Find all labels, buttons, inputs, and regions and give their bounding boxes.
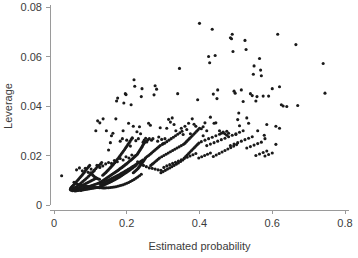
x-tick-label: 0.8: [337, 217, 352, 229]
data-point: [151, 137, 154, 140]
data-point: [154, 168, 157, 171]
data-point: [132, 78, 135, 81]
data-point: [130, 103, 133, 106]
data-point: [88, 164, 91, 167]
data-point: [137, 137, 140, 140]
data-point: [285, 105, 288, 108]
data-point: [171, 162, 174, 165]
data-point: [265, 123, 268, 126]
data-point: [243, 39, 246, 42]
data-point: [191, 153, 194, 156]
data-point: [258, 57, 261, 60]
data-point: [189, 132, 192, 135]
data-point: [124, 93, 127, 96]
data-point: [162, 166, 165, 169]
data-point: [171, 116, 174, 119]
data-point: [221, 150, 224, 153]
data-point: [209, 151, 212, 154]
data-point: [156, 140, 159, 143]
data-point: [132, 125, 135, 128]
data-point: [206, 153, 209, 156]
data-point: [212, 93, 215, 96]
y-tick-label: 0.02: [21, 150, 42, 162]
data-point: [253, 64, 256, 67]
data-point: [109, 141, 112, 144]
data-point: [211, 28, 214, 31]
plot-canvas: 00.020.040.060.0800.20.40.60.8Estimated …: [0, 0, 358, 258]
data-point: [111, 132, 114, 135]
data-point: [163, 137, 166, 140]
data-point: [125, 139, 128, 142]
data-point: [60, 174, 63, 177]
data-point: [234, 133, 237, 136]
data-point: [156, 168, 159, 171]
data-point: [133, 85, 136, 88]
data-point: [200, 155, 203, 158]
scatter-plot-figure: 00.020.040.060.0800.20.40.60.8Estimated …: [0, 0, 358, 258]
data-point: [136, 160, 139, 163]
data-point: [174, 129, 177, 132]
data-point: [129, 145, 132, 148]
x-tick-label: 0: [51, 217, 57, 229]
data-point: [242, 129, 245, 132]
data-point: [115, 100, 118, 103]
data-point: [271, 151, 274, 154]
data-point: [188, 154, 191, 157]
data-point: [202, 134, 205, 137]
data-point: [220, 138, 223, 141]
data-point: [135, 130, 138, 133]
data-point: [259, 69, 262, 72]
data-point: [214, 54, 217, 57]
data-point: [104, 162, 107, 165]
data-point: [113, 159, 116, 162]
y-tick-label: 0.04: [21, 100, 42, 112]
data-point: [234, 92, 237, 95]
data-point: [140, 173, 143, 176]
data-point: [245, 147, 248, 150]
data-point: [278, 127, 281, 130]
data-point: [267, 95, 270, 98]
data-point: [230, 37, 233, 40]
data-point: [107, 149, 110, 152]
data-point: [229, 146, 232, 149]
data-point: [100, 161, 103, 164]
data-point: [162, 142, 165, 145]
data-point: [253, 144, 256, 147]
data-point: [110, 162, 113, 165]
data-point: [81, 169, 84, 172]
data-point: [154, 84, 157, 87]
data-point: [207, 137, 210, 140]
data-point: [214, 121, 217, 124]
data-point: [238, 124, 241, 127]
data-point: [151, 167, 154, 170]
data-point: [252, 73, 255, 76]
data-point: [145, 165, 148, 168]
data-point: [194, 152, 197, 155]
data-point: [122, 101, 125, 104]
data-point: [169, 121, 172, 124]
data-point: [157, 135, 160, 138]
data-point: [152, 93, 155, 96]
data-point: [183, 125, 186, 128]
data-point: [211, 136, 214, 139]
data-point: [276, 33, 279, 36]
data-point: [98, 166, 101, 169]
data-point: [174, 161, 177, 164]
data-point: [168, 163, 171, 166]
data-point: [178, 67, 181, 70]
data-point: [200, 140, 203, 143]
data-point: [200, 127, 203, 130]
data-point: [209, 143, 212, 146]
x-tick-label: 0.6: [265, 217, 280, 229]
data-point: [140, 87, 143, 90]
data-point: [223, 137, 226, 140]
y-tick-label: 0.06: [21, 51, 42, 63]
data-point: [251, 135, 254, 138]
x-tick-label: 0.2: [119, 217, 134, 229]
data-point: [237, 111, 240, 114]
data-point: [231, 134, 234, 137]
data-point: [254, 154, 257, 157]
data-point: [138, 125, 141, 128]
data-point: [245, 48, 248, 51]
data-point: [90, 168, 93, 171]
